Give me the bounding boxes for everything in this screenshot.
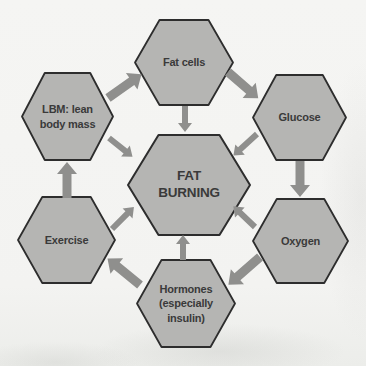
arrow-hormones-to-exercise — [101, 251, 146, 293]
hexagon-fat-burning — [128, 135, 250, 235]
hexagon-hormones — [137, 260, 235, 347]
hexagon-oxygen — [253, 199, 348, 283]
arrow-glucose-to-center — [229, 129, 262, 161]
arrow-glucose-to-oxygen — [290, 161, 310, 197]
hexagon-glucose — [253, 75, 346, 160]
arrow-exercise-to-center — [107, 202, 139, 234]
arrow-exercise-to-lbm — [57, 162, 77, 198]
arrow-hormones-to-center — [176, 235, 190, 260]
arrow-oxygen-to-hormones — [222, 249, 267, 292]
arrow-lbm-to-center — [105, 133, 137, 163]
hexagon-lbm — [22, 73, 113, 160]
fat-burning-diagram: Fat cells Glucose Oxygen Hormones (espec… — [0, 0, 366, 366]
diagram-canvas — [0, 0, 366, 366]
arrow-fat-cells-to-center — [178, 106, 192, 132]
hexagon-exercise — [18, 197, 115, 283]
hexagon-fat-cells — [135, 20, 233, 105]
